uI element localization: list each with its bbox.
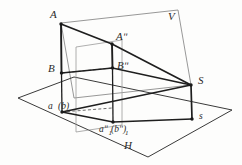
segment-Bdd-to-add bbox=[113, 68, 114, 122]
dot-S bbox=[189, 83, 192, 86]
label-point-B-double-prime: Bʺ bbox=[117, 59, 129, 71]
segment-AB bbox=[61, 24, 62, 73]
label-point-b-lower-paren: (b) bbox=[58, 101, 69, 112]
ray-a-add-s bbox=[62, 112, 192, 122]
dot-Add bbox=[110, 42, 113, 45]
dot-A bbox=[59, 22, 62, 25]
dot-s bbox=[190, 117, 193, 120]
label-point-a1-double-prime: aʺ bbox=[99, 124, 109, 134]
ray-B-Bdd-S bbox=[62, 68, 192, 85]
dot-B bbox=[60, 71, 63, 74]
ground-trace-upper bbox=[62, 85, 191, 112]
projection-diagram: A Aʺ B Bʺ a (b) aʺ 1 (bʺ) 1 V H S s bbox=[0, 0, 242, 165]
label-plane-V: V bbox=[168, 10, 176, 22]
label-point-s-lower: s bbox=[199, 111, 203, 121]
label-point-A: A bbox=[49, 8, 57, 20]
diagram-canvas: A Aʺ B Bʺ a (b) aʺ 1 (bʺ) 1 V H S s bbox=[0, 0, 242, 165]
link-S-to-s bbox=[191, 85, 192, 119]
label-point-b1-double-prime: (bʺ) bbox=[111, 124, 126, 135]
dot-add1 bbox=[111, 120, 114, 123]
plane-v-outline bbox=[61, 10, 191, 98]
label-point-S-upper: S bbox=[198, 74, 204, 86]
hidden-lines bbox=[62, 68, 112, 112]
label-point-A-double-prime: Aʺ bbox=[115, 30, 128, 42]
segment-Add-Bdd bbox=[112, 44, 113, 68]
label-subscript-b1: 1 bbox=[125, 129, 129, 137]
label-group-a1-paren-b1: aʺ 1 (bʺ) 1 bbox=[99, 124, 129, 137]
label-point-B: B bbox=[48, 62, 55, 74]
label-plane-H: H bbox=[123, 139, 133, 151]
dot-Bdd bbox=[111, 66, 114, 69]
label-group-a-paren-b: a (b) bbox=[48, 101, 69, 112]
label-point-a-lower: a bbox=[48, 101, 53, 111]
